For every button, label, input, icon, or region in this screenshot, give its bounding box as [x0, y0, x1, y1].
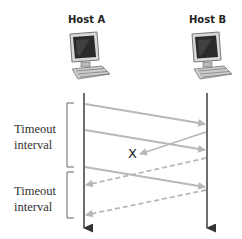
timeout-interval-label-1: Timeout interval: [14, 121, 56, 153]
tcp-retransmission-diagram: Host A Host B Timeout interval Timeout i…: [0, 0, 242, 239]
data-packet-1-arrow: [85, 104, 205, 124]
timeout-label-1-line2: interval: [14, 137, 56, 153]
host-b-computer-icon: [192, 32, 232, 79]
lost-packet-x-icon: X: [128, 146, 137, 161]
data-packet-2-arrow: [85, 130, 205, 150]
host-b-label: Host B: [189, 14, 226, 25]
host-a-label: Host A: [68, 14, 105, 25]
timeout-bracket-2: [67, 172, 74, 218]
timeout-bracket-1: [67, 103, 74, 167]
timeout-label-2-line1: Timeout: [14, 183, 56, 199]
timeout-interval-label-2: Timeout interval: [14, 183, 56, 215]
host-a-computer-icon: [70, 32, 110, 79]
dashed-ack-2-arrow: [86, 190, 206, 215]
timeout-label-2-line2: interval: [14, 199, 56, 215]
lost-ack-arrow: [140, 132, 206, 154]
data-packet-3-arrow: [85, 167, 205, 187]
timeout-label-1-line1: Timeout: [14, 121, 56, 137]
dashed-ack-1-arrow: [86, 158, 206, 185]
